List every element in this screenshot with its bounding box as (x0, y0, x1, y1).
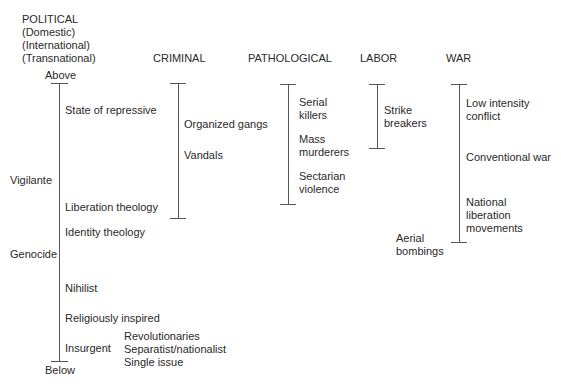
pathological-item-sectarian-line1: Sectarian (299, 170, 345, 183)
pathological-item-mass-line2: murderers (299, 146, 349, 159)
pathological-title: PATHOLOGICAL (248, 52, 332, 65)
political-item-nihilist: Nihilist (65, 282, 97, 295)
pathological-item-serial-line1: Serial (299, 96, 327, 109)
war-title: WAR (446, 52, 471, 65)
pathological-item-serial-line2: killers (299, 109, 327, 122)
political-subtitle-international: (International) (22, 39, 90, 52)
war-item-low-intensity-line1: Low intensity (466, 97, 530, 110)
criminal-title: CRIMINAL (153, 52, 206, 65)
political-subtitle-domestic: (Domestic) (22, 26, 75, 39)
war-bottom-tick (451, 242, 467, 243)
pathological-item-mass-line1: Mass (299, 133, 325, 146)
political-axis-line (59, 83, 60, 361)
political-item-state-repressive: State of repressive (65, 104, 157, 117)
criminal-bottom-tick (170, 218, 186, 219)
political-subtitle-transnational: (Transnational) (22, 52, 96, 65)
labor-bottom-tick (369, 148, 385, 149)
labor-item-strike-line1: Strike (384, 104, 412, 117)
political-item-liberation-theology: Liberation theology (65, 201, 158, 214)
war-axis-line (459, 84, 460, 242)
political-top-label: Above (45, 69, 76, 82)
insurgent-subtype-single-issue: Single issue (124, 356, 183, 369)
war-item-conventional: Conventional war (466, 151, 551, 164)
criminal-axis-line (178, 83, 179, 218)
labor-item-strike-line2: breakers (384, 117, 427, 130)
war-side-label-bombings: bombings (396, 245, 444, 258)
labor-axis-line (377, 84, 378, 148)
pathological-item-sectarian-line2: violence (299, 183, 339, 196)
war-item-national-line1: National (466, 196, 506, 209)
political-left-label-vigilante: Vigilante (10, 174, 52, 187)
war-side-label-aerial: Aerial (396, 232, 424, 245)
war-item-low-intensity-line2: conflict (466, 110, 500, 123)
labor-title: LABOR (360, 52, 397, 65)
criminal-item-vandals: Vandals (184, 149, 223, 162)
political-item-insurgent: Insurgent (65, 342, 111, 355)
pathological-axis-line (288, 84, 289, 204)
criminal-item-organized-gangs: Organized gangs (184, 118, 268, 131)
war-item-national-line2: liberation (466, 209, 511, 222)
insurgent-subtype-separatist: Separatist/nationalist (124, 343, 226, 356)
political-bottom-tick (51, 361, 68, 362)
pathological-bottom-tick (280, 204, 296, 205)
political-title: POLITICAL (22, 13, 78, 26)
political-left-label-genocide: Genocide (10, 248, 57, 261)
war-item-national-line3: movements (466, 222, 523, 235)
political-item-religiously-inspired: Religiously inspired (65, 312, 160, 325)
insurgent-subtype-revolutionaries: Revolutionaries (124, 330, 200, 343)
political-bottom-label: Below (45, 364, 75, 377)
political-item-identity-theology: Identity theology (65, 226, 145, 239)
